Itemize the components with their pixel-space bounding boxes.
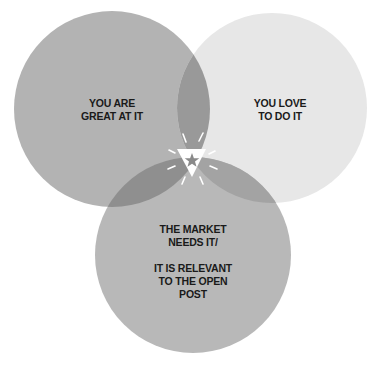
label-line: YOU LOVE	[230, 97, 330, 110]
label-line: TO THE OPEN	[133, 275, 253, 288]
label-line: POST	[133, 288, 253, 301]
label-love-to-do-it: YOU LOVE TO DO IT	[230, 97, 330, 123]
label-line: IT IS RELEVANT	[133, 262, 253, 275]
label-market-needs-it: THE MARKET NEEDS IT/ IT IS RELEVANT TO T…	[133, 223, 253, 301]
label-line: NEEDS IT/	[133, 236, 253, 249]
label-line: TO DO IT	[230, 110, 330, 123]
label-spacer	[133, 249, 253, 262]
label-great-at-it: YOU ARE GREAT AT IT	[62, 97, 162, 123]
label-line: YOU ARE	[62, 97, 162, 110]
label-line: THE MARKET	[133, 223, 253, 236]
venn-diagram	[0, 0, 377, 368]
label-line: GREAT AT IT	[62, 110, 162, 123]
